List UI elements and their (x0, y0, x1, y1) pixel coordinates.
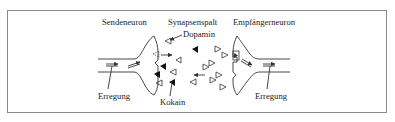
synaptic-cleft-label: Synapsenspalt (168, 17, 218, 27)
sender-neuron-shape (98, 36, 158, 95)
sender-neuron-label: Sendeneuron (102, 17, 148, 27)
dopamine-label: Dopamin (183, 29, 216, 39)
cocaine-pointer (170, 83, 172, 96)
cocaine-label: Kokain (160, 97, 186, 107)
receiver-neuron-label: Empfängerneuron (233, 17, 296, 27)
cocaine-molecules (154, 46, 198, 86)
synapse-diagram: Sendeneuron Synapsenspalt Empfängerneuro… (0, 0, 395, 122)
excitation-right-label: Erregung (255, 91, 288, 101)
dopamine-pointer (170, 35, 182, 40)
receiver-neuron-shape (233, 36, 290, 95)
excitation-left-label: Erregung (98, 91, 131, 101)
